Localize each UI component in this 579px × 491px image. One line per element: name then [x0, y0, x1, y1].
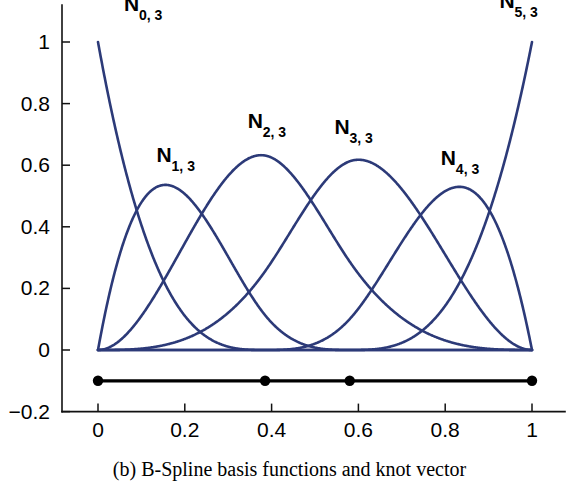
- curve-label-subscript: 2, 3: [263, 124, 287, 140]
- y-tick-label: 0: [38, 338, 50, 361]
- basis-curves: [98, 42, 532, 350]
- curve-label-subscript: 5, 3: [514, 4, 538, 20]
- curve-label-5: N5, 3: [499, 0, 538, 20]
- x-tick-label: 0: [92, 418, 104, 441]
- curve-label-4: N4, 3: [441, 146, 480, 177]
- bspline-basis-chart: −0.200.20.40.60.8100.20.40.60.81 N0, 3N1…: [0, 0, 579, 491]
- x-tick-label: 0.2: [170, 418, 199, 441]
- x-tick-label: 1: [526, 418, 538, 441]
- curve-label-0: N0, 3: [124, 0, 163, 23]
- axis-ticks: [62, 42, 532, 412]
- x-tick-label: 0.8: [431, 418, 460, 441]
- curve-label-main: N: [335, 115, 350, 138]
- tick-labels: −0.200.20.40.60.8100.20.40.60.81: [9, 30, 538, 441]
- y-tick-label: 1: [38, 30, 50, 53]
- figure-caption: (b) B-Spline basis functions and knot ve…: [0, 458, 579, 481]
- y-tick-label: 0.2: [21, 276, 50, 299]
- curve-labels: N0, 3N1, 3N2, 3N3, 3N4, 3N5, 3: [124, 0, 538, 177]
- y-tick-label: −0.2: [9, 400, 50, 423]
- curve-label-3: N3, 3: [335, 115, 374, 146]
- curve-label-1: N1, 3: [157, 143, 196, 174]
- y-tick-label: 0.8: [21, 92, 50, 115]
- knot-marker-1: [260, 376, 270, 386]
- knot-marker-2: [345, 376, 355, 386]
- y-tick-label: 0.6: [21, 153, 50, 176]
- curve-label-main: N: [124, 0, 139, 15]
- knot-vector-line: [93, 376, 537, 386]
- curve-label-main: N: [248, 109, 263, 132]
- curve-label-subscript: 1, 3: [172, 158, 196, 174]
- bspline-basis-figure: −0.200.20.40.60.8100.20.40.60.81 N0, 3N1…: [0, 0, 579, 491]
- x-tick-label: 0.6: [344, 418, 373, 441]
- curve-label-subscript: 0, 3: [139, 7, 163, 23]
- knot-marker-3: [527, 376, 537, 386]
- knot-marker-0: [93, 376, 103, 386]
- curve-label-main: N: [441, 146, 456, 169]
- curve-label-subscript: 4, 3: [456, 161, 480, 177]
- curve-label-main: N: [157, 143, 172, 166]
- y-tick-label: 0.4: [21, 215, 51, 238]
- curve-label-subscript: 3, 3: [350, 130, 374, 146]
- curve-label-main: N: [499, 0, 514, 12]
- x-tick-label: 0.4: [257, 418, 287, 441]
- curve-label-2: N2, 3: [248, 109, 287, 140]
